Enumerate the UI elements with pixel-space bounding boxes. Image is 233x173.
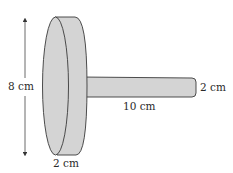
disk-diameter-label: 8 cm (8, 80, 34, 92)
disk-front-face (43, 17, 69, 155)
disk-thickness-label: 2 cm (53, 157, 79, 169)
rod-diameter-label: 2 cm (200, 81, 226, 93)
diagram-canvas: 8 cm 10 cm 2 cm 2 cm (0, 0, 233, 173)
rod (80, 77, 196, 97)
rod-length-label: 10 cm (123, 100, 156, 112)
